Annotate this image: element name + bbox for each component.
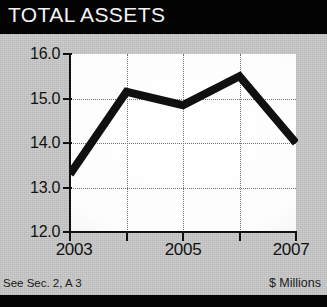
bottom-band	[0, 295, 327, 307]
y-axis-label-16: 16.0	[4, 45, 60, 63]
x-axis-label-2007: 2007	[273, 240, 310, 260]
y-axis-label-13: 13.0	[4, 179, 60, 197]
page-title: TOTAL ASSETS	[8, 3, 165, 27]
tick-y-16	[63, 53, 72, 55]
y-axis-label-12: 12.0	[4, 223, 60, 241]
x-axis-label-2005: 2005	[165, 240, 202, 260]
tick-x-2006	[239, 233, 241, 241]
tick-x-2004	[126, 233, 128, 241]
series-line-total-assets	[70, 54, 298, 234]
title-band: TOTAL ASSETS	[0, 0, 327, 34]
chart-figure: TOTAL ASSETS 16.0 15.0 14.0 13.0 12.0	[0, 0, 327, 307]
y-axis-label-15: 15.0	[4, 90, 60, 108]
source-note: See Sec. 2, A 3	[3, 277, 82, 289]
tick-y-14	[63, 142, 72, 144]
units-note: $ Millions	[269, 276, 321, 290]
tick-y-13	[63, 187, 72, 189]
x-axis-label-2003: 2003	[56, 240, 93, 260]
y-axis-label-14: 14.0	[4, 134, 60, 152]
tick-y-15	[63, 98, 72, 100]
